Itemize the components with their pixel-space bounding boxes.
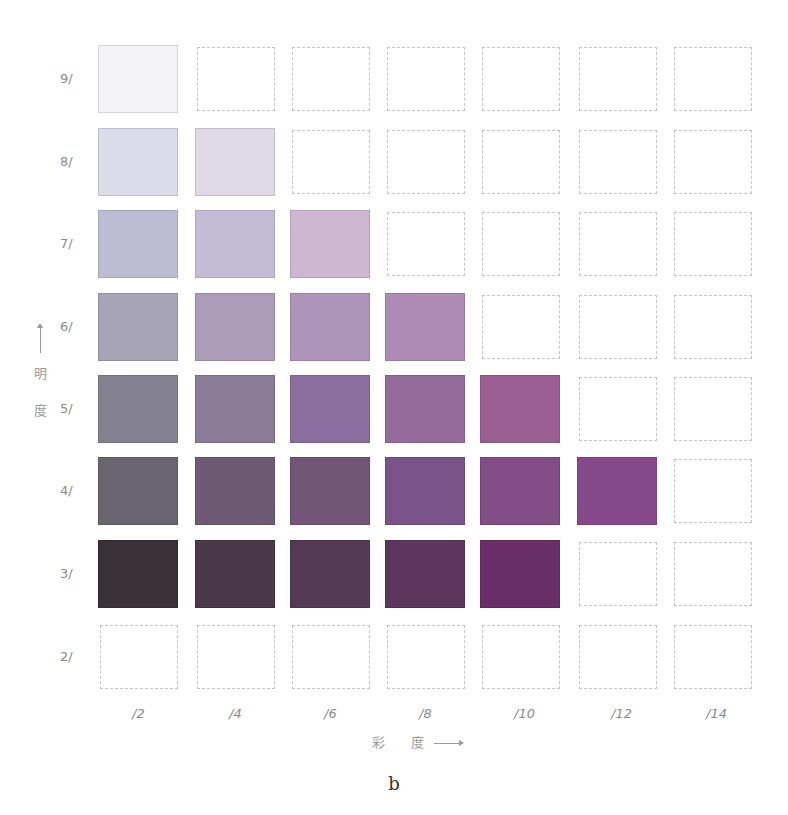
empty-swatch-slot: [482, 212, 560, 276]
y-axis-label: 明 度: [30, 325, 50, 437]
empty-swatch-slot: [674, 130, 752, 194]
figure-caption-clipped: [270, 806, 530, 815]
empty-swatch-slot: [482, 130, 560, 194]
empty-swatch-slot: [387, 212, 465, 276]
color-swatch: [385, 375, 465, 443]
empty-swatch-slot: [579, 377, 657, 441]
empty-swatch-slot: [387, 47, 465, 111]
row-label: 6/: [60, 319, 90, 334]
empty-swatch-slot: [292, 130, 370, 194]
row-label: 4/: [60, 483, 90, 498]
color-swatch: [98, 540, 178, 608]
empty-swatch-slot: [579, 295, 657, 359]
column-label: /12: [611, 706, 671, 721]
empty-swatch-slot: [674, 377, 752, 441]
color-swatch: [195, 128, 275, 196]
color-swatch: [98, 375, 178, 443]
x-axis-char-2: 度: [411, 735, 424, 750]
color-swatch: [480, 375, 560, 443]
empty-swatch-slot: [674, 459, 752, 523]
empty-swatch-slot: [387, 625, 465, 689]
empty-swatch-slot: [292, 625, 370, 689]
color-swatch: [577, 457, 657, 525]
row-label: 2/: [60, 649, 90, 664]
color-swatch: [290, 457, 370, 525]
row-label: 3/: [60, 566, 90, 581]
empty-swatch-slot: [292, 47, 370, 111]
empty-swatch-slot: [197, 47, 275, 111]
color-swatch: [98, 457, 178, 525]
empty-swatch-slot: [482, 295, 560, 359]
color-swatch: [98, 210, 178, 278]
y-axis-char-2: 度: [30, 400, 50, 419]
row-label: 5/: [60, 401, 90, 416]
x-axis-label: 彩 度: [372, 732, 462, 751]
color-swatch: [195, 540, 275, 608]
right-arrow-icon: [434, 743, 462, 744]
empty-swatch-slot: [579, 542, 657, 606]
column-label: /6: [324, 706, 384, 721]
figure-label: b: [0, 773, 788, 794]
color-swatch: [98, 45, 178, 113]
color-swatch: [290, 210, 370, 278]
empty-swatch-slot: [674, 625, 752, 689]
empty-swatch-slot: [579, 47, 657, 111]
color-swatch: [480, 457, 560, 525]
empty-swatch-slot: [579, 212, 657, 276]
color-swatch: [290, 375, 370, 443]
color-swatch: [195, 375, 275, 443]
empty-swatch-slot: [579, 130, 657, 194]
empty-swatch-slot: [482, 625, 560, 689]
empty-swatch-slot: [100, 625, 178, 689]
color-swatch: [480, 540, 560, 608]
empty-swatch-slot: [387, 130, 465, 194]
color-swatch: [98, 128, 178, 196]
column-label: /8: [419, 706, 479, 721]
color-swatch: [195, 210, 275, 278]
color-swatch: [98, 293, 178, 361]
empty-swatch-slot: [674, 212, 752, 276]
up-arrow-icon: [40, 325, 41, 353]
y-axis-char-1: 明: [30, 363, 50, 382]
color-swatch: [385, 457, 465, 525]
color-swatch: [195, 293, 275, 361]
column-label: /14: [706, 706, 766, 721]
empty-swatch-slot: [674, 542, 752, 606]
x-axis-char-1: 彩: [372, 735, 385, 750]
color-swatch: [290, 293, 370, 361]
munsell-chart-grid: 9/8/7/6/5/4/3/2//2/4/6/8/10/12/14: [0, 0, 788, 815]
row-label: 7/: [60, 236, 90, 251]
color-swatch: [290, 540, 370, 608]
color-swatch: [385, 540, 465, 608]
empty-swatch-slot: [674, 295, 752, 359]
empty-swatch-slot: [579, 625, 657, 689]
column-label: /4: [229, 706, 289, 721]
column-label: /2: [132, 706, 192, 721]
empty-swatch-slot: [482, 47, 560, 111]
row-label: 8/: [60, 154, 90, 169]
color-swatch: [385, 293, 465, 361]
color-swatch: [195, 457, 275, 525]
empty-swatch-slot: [197, 625, 275, 689]
row-label: 9/: [60, 71, 90, 86]
column-label: /10: [514, 706, 574, 721]
empty-swatch-slot: [674, 47, 752, 111]
